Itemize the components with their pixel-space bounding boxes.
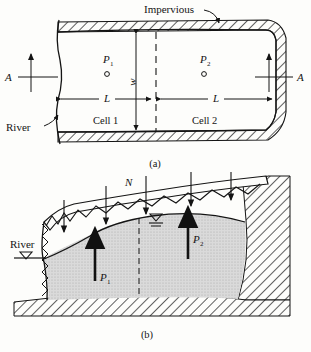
section-label-left: A (4, 71, 12, 83)
p1-point-circle-a (105, 72, 110, 77)
panel-b-caption: (b) (141, 329, 154, 341)
length-dimension-right: L (161, 92, 272, 105)
figure-svg: Impervious River w L L P 1 (0, 0, 311, 352)
p2-point-circle-a (202, 72, 207, 77)
panel-a-caption: (a) (149, 158, 161, 170)
recharge-label: N (124, 176, 133, 188)
section-label-right: A (296, 71, 304, 83)
p2-subscript-a: 2 (207, 60, 211, 68)
figure-container: Impervious River w L L P 1 (0, 0, 311, 352)
bedrock-right (238, 176, 290, 300)
length-right-label: L (212, 92, 219, 104)
p2-label-b: P (192, 233, 200, 245)
p1-subscript-b: 1 (107, 278, 111, 286)
p1-subscript-a: 1 (110, 60, 114, 68)
width-label: w (126, 78, 138, 86)
p1-label-b: P (99, 271, 107, 283)
cell-1-label: Cell 1 (93, 115, 118, 126)
section-marker-left: A (4, 54, 58, 92)
point-p1-marker-a: P 1 (102, 53, 114, 76)
p2-label-a: P (199, 53, 207, 65)
width-dimension: w (126, 34, 138, 130)
river-label-b: River (10, 238, 35, 250)
length-dimension-left: L (61, 92, 151, 105)
length-left-label: L (103, 92, 110, 104)
p1-label-a: P (102, 53, 110, 65)
panel-a-plan-view: Impervious River w L L P 1 (4, 3, 304, 170)
panel-b-cross-section: N P 1 P 2 River (b) (10, 172, 290, 341)
river-boundary-edge (56, 20, 61, 144)
impervious-label: Impervious (144, 3, 194, 15)
p2-subscript-b: 2 (200, 240, 204, 248)
cell-2-label: Cell 2 (192, 115, 217, 126)
point-p2-marker-a: P 2 (199, 53, 211, 76)
river-label-a: River (6, 121, 31, 133)
